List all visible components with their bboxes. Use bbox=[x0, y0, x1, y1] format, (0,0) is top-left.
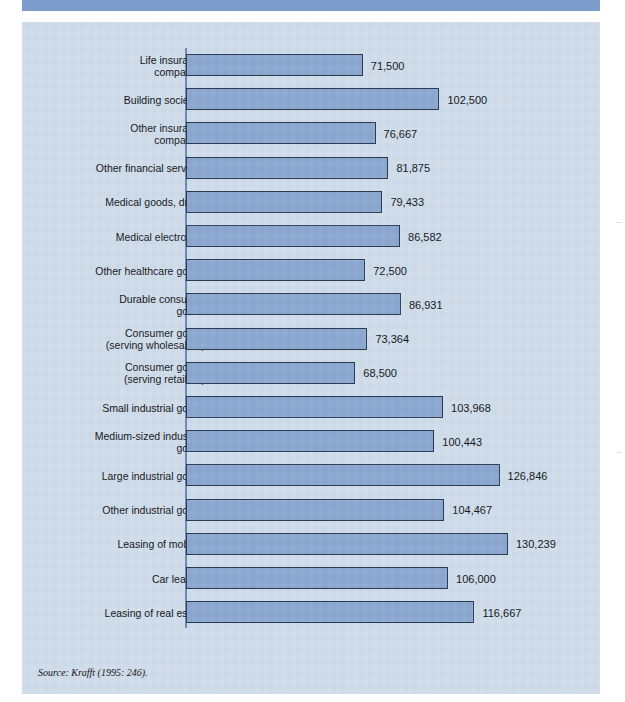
bar bbox=[186, 157, 388, 179]
bar-row: Medical goods, drugs79,433 bbox=[22, 185, 600, 220]
page-header-strip bbox=[22, 0, 600, 11]
figure-panel: Life insurance companies71,500Building s… bbox=[22, 22, 600, 694]
bar-row: Building societies102,500 bbox=[22, 82, 600, 117]
bar bbox=[186, 499, 444, 521]
category-label: Life insurance companies bbox=[35, 54, 205, 78]
category-label: Medium-sized industrial goods bbox=[35, 430, 205, 454]
bar bbox=[186, 122, 376, 144]
bar-value-label: 68,500 bbox=[363, 367, 397, 379]
bar bbox=[186, 88, 439, 110]
bar-row: Other insurance companies76,667 bbox=[22, 116, 600, 151]
bar-value-label: 86,931 bbox=[409, 299, 443, 311]
bar bbox=[186, 567, 448, 589]
page-edge-tick-bottom bbox=[616, 452, 622, 453]
bar-row: Other industrial goods104,467 bbox=[22, 493, 600, 528]
bar bbox=[186, 396, 443, 418]
bar-value-label: 126,846 bbox=[508, 470, 548, 482]
bar-value-label: 71,500 bbox=[371, 60, 405, 72]
category-label: Consumer goods (serving retailers) bbox=[35, 361, 205, 385]
bar-chart-plot: Life insurance companies71,500Building s… bbox=[22, 22, 600, 640]
bar bbox=[186, 293, 401, 315]
category-label: Large industrial goods bbox=[35, 470, 205, 482]
bar-row: Medical electronics86,582 bbox=[22, 219, 600, 254]
bar bbox=[186, 533, 508, 555]
bar-row: Leasing of real estate116,667 bbox=[22, 595, 600, 630]
category-label: Small industrial goods bbox=[35, 402, 205, 414]
category-label: Leasing of real estate bbox=[35, 607, 205, 619]
bar bbox=[186, 601, 474, 623]
bar-value-label: 100,443 bbox=[442, 436, 482, 448]
category-label: Leasing of mobiles bbox=[35, 538, 205, 550]
bar-value-label: 76,667 bbox=[384, 128, 418, 140]
bar-value-label: 116,667 bbox=[482, 607, 521, 619]
page-edge-tick-top bbox=[616, 222, 622, 223]
bar-row: Consumer goods (serving retailers)68,500 bbox=[22, 356, 600, 391]
bar-value-label: 102,500 bbox=[447, 94, 487, 106]
bar-row: Other healthcare goods72,500 bbox=[22, 253, 600, 288]
category-label: Building societies bbox=[35, 94, 205, 106]
bar bbox=[186, 362, 355, 384]
bar bbox=[186, 191, 382, 213]
category-label: Medical electronics bbox=[35, 231, 205, 243]
bar bbox=[186, 464, 500, 486]
category-label: Durable consumer goods bbox=[35, 293, 205, 317]
bar-row: Consumer goods (serving wholesalers)73,3… bbox=[22, 322, 600, 357]
bar-row: Car leasing106,000 bbox=[22, 561, 600, 596]
bar-value-label: 130,239 bbox=[516, 538, 556, 550]
bar-row: Large industrial goods126,846 bbox=[22, 458, 600, 493]
category-label: Other insurance companies bbox=[35, 122, 205, 146]
category-label: Medical goods, drugs bbox=[35, 196, 205, 208]
header-gap bbox=[0, 11, 625, 22]
bar-value-label: 73,364 bbox=[375, 333, 409, 345]
bar-row: Medium-sized industrial goods100,443 bbox=[22, 424, 600, 459]
bar-value-label: 106,000 bbox=[456, 573, 496, 585]
bar-value-label: 86,582 bbox=[408, 231, 442, 243]
bar bbox=[186, 328, 367, 350]
bar bbox=[186, 225, 400, 247]
bar-value-label: 79,433 bbox=[390, 196, 424, 208]
bar-row: Leasing of mobiles130,239 bbox=[22, 527, 600, 562]
bar-value-label: 104,467 bbox=[452, 504, 492, 516]
bar-row: Small industrial goods103,968 bbox=[22, 390, 600, 425]
bar bbox=[186, 54, 363, 76]
bar-value-label: 72,500 bbox=[373, 265, 407, 277]
category-label: Car leasing bbox=[35, 573, 205, 585]
bar-row: Life insurance companies71,500 bbox=[22, 48, 600, 83]
category-label: Other industrial goods bbox=[35, 504, 205, 516]
bar-value-label: 103,968 bbox=[451, 402, 491, 414]
source-note: Source: Krafft (1995: 246). bbox=[38, 667, 148, 678]
bar bbox=[186, 259, 365, 281]
category-label: Other financial services bbox=[35, 162, 205, 174]
bar-value-label: 81,875 bbox=[396, 162, 430, 174]
bar-row: Other financial services81,875 bbox=[22, 151, 600, 186]
bar bbox=[186, 430, 434, 452]
category-label: Other healthcare goods bbox=[35, 265, 205, 277]
category-label: Consumer goods (serving wholesalers) bbox=[35, 327, 205, 351]
bar-row: Durable consumer goods86,931 bbox=[22, 287, 600, 322]
